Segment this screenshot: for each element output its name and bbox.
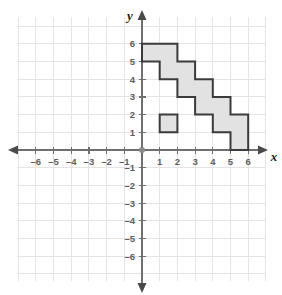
- y-tick-label: 5: [130, 56, 136, 67]
- y-axis-label: y: [125, 8, 133, 23]
- x-tick-label: 4: [210, 156, 216, 167]
- y-tick-label: –4: [124, 215, 135, 226]
- y-tick-label: –6: [124, 251, 135, 262]
- x-tick-label: –6: [31, 156, 42, 167]
- y-axis-arrow-up: [138, 10, 147, 20]
- unit-square: [160, 115, 178, 133]
- y-tick-label: –2: [124, 180, 135, 191]
- x-tick-label: 2: [175, 156, 180, 167]
- x-tick-label: 3: [192, 156, 197, 167]
- x-tick-label: –4: [66, 156, 77, 167]
- x-tick-label: 1: [157, 156, 163, 167]
- x-axis-label: x: [270, 149, 278, 164]
- origin-marker: [139, 147, 145, 153]
- x-axis-arrow-right: [258, 146, 268, 155]
- y-tick-label: 6: [130, 38, 135, 49]
- x-tick-label: –2: [101, 156, 112, 167]
- x-tick-label: –5: [48, 156, 59, 167]
- x-tick-label: 6: [246, 156, 251, 167]
- y-tick-label: 2: [130, 109, 135, 120]
- x-tick-label: 5: [228, 156, 234, 167]
- coordinate-plane: –6–5–4–3–2–1123456654321–1–2–3–4–5–6 yx: [0, 0, 282, 295]
- y-tick-label: 4: [130, 74, 136, 85]
- y-tick-label: –1: [124, 162, 135, 173]
- y-tick-label: –3: [124, 198, 135, 209]
- y-tick-label: –5: [124, 233, 135, 244]
- y-axis-arrow-down: [138, 283, 147, 293]
- x-axis-arrow-left: [8, 146, 18, 155]
- x-tick-label: –3: [84, 156, 95, 167]
- axes: [8, 10, 268, 293]
- y-tick-label: 3: [130, 91, 135, 102]
- y-tick-label: 1: [130, 127, 136, 138]
- coordinate-figure: –6–5–4–3–2–1123456654321–1–2–3–4–5–6 yx: [0, 0, 282, 295]
